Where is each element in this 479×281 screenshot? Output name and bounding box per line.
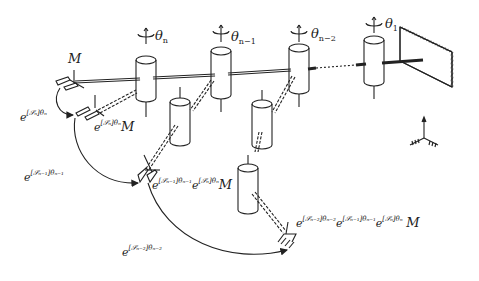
joint-n-cylinder-icon: [136, 28, 156, 117]
joint-n-2-cylinder-icon: [289, 25, 309, 107]
gripper-home-icon: [56, 70, 84, 90]
space-frame-icon: [410, 117, 438, 147]
arrow-n-label: e[𝒮ₙ]θₙ: [20, 110, 47, 123]
frame-after-n-label: e[𝒮ₙ]θₙM: [94, 120, 134, 133]
joint-1-cylinder-icon: [364, 17, 384, 99]
gripper-after-n-icon: [76, 95, 104, 120]
joint-n-1-label: θn−1: [231, 30, 256, 46]
rotated-joint-n-cylinder-icon: [170, 87, 190, 146]
joint-n-label: θn: [155, 29, 168, 45]
arrow-n-2-label: e[𝒮ₙ₋₂]θₙ₋₂: [122, 245, 162, 258]
frame-after-n-2-label: e[𝒮ₙ₋₂]θₙ₋₂e[𝒮ₙ₋₁]θₙ₋₁e[𝒮ₙ]θₙ M: [296, 216, 419, 229]
frame-after-n-1-label: e[𝒮ₙ₋₁]θₙ₋₁e[𝒮ₙ]θₙM: [152, 178, 232, 191]
joint-n-2-label: θn−2: [311, 27, 336, 43]
arrow-n-2-curve: [148, 183, 287, 254]
joint-1-label: θ1: [385, 17, 398, 33]
wall-base-icon: [400, 27, 452, 87]
arrow-n-curve: [56, 88, 73, 115]
joint-n-1-cylinder-icon: [211, 25, 231, 112]
robot-arm-poe-diagram: θn θn−1 θn−2 θ1 M e[𝒮ₙ]θₙM e[𝒮ₙ₋₁]θₙ₋₁e[…: [0, 0, 479, 281]
rotated-link-n-final: [252, 192, 286, 233]
home-link: [75, 60, 423, 82]
gripper-after-n-2-icon: [278, 222, 296, 248]
rotated-joint-n-cylinder-2-icon: [238, 155, 258, 214]
rotated-link-n: [98, 90, 137, 113]
rotated-joint-n-1-cylinder-icon: [252, 90, 272, 149]
arrow-n-1-label: e[𝒮ₙ₋₁]θₙ₋₁: [24, 170, 64, 183]
home-frame-label: M: [68, 52, 81, 65]
